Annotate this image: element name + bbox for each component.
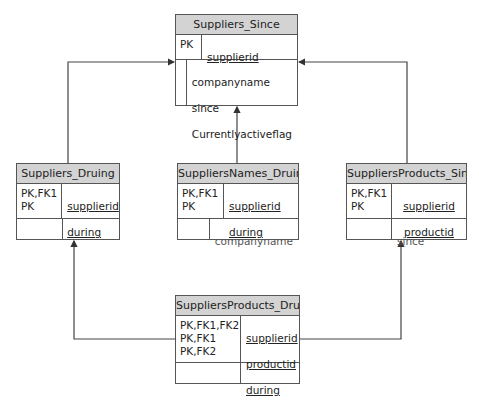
key-labels: PK,FK1 PK [17, 184, 62, 218]
field-supplierid: supplierid [246, 332, 298, 345]
rel-supplierproducts-during-to-suppliers-during [74, 241, 176, 339]
key-labels: PK,FK1 PK [178, 184, 224, 218]
primary-key-fields: supplierid productid during [241, 316, 303, 362]
field-since: since [192, 102, 292, 115]
entity-suppliers-since[interactable]: Suppliers_Since PK supplierid companynam… [175, 14, 298, 106]
attribute-fields: companyname since Currentlyactiveflag [187, 60, 297, 106]
attr-labels [176, 60, 187, 106]
field-supplierid: supplierid [229, 200, 293, 213]
attribute-fields: since [392, 219, 466, 239]
attr-labels [17, 219, 63, 239]
rel-suppliers-during-to-since [68, 62, 174, 163]
attribute-fields [241, 363, 299, 383]
field-companyname: companyname [192, 76, 292, 89]
attr-labels [176, 363, 241, 383]
entity-suppliernames-during[interactable]: SuppliersNames_Druing PK,FK1 PK supplier… [177, 163, 299, 240]
rel-supplierproducts-since-to-since [299, 62, 407, 163]
attr-labels [347, 219, 392, 239]
key-labels: PK,FK1,FK2 PK,FK1 PK,FK2 [176, 316, 241, 362]
field-currentlyactiveflag: Currentlyactiveflag [192, 128, 292, 141]
primary-key-fields: supplierid [202, 35, 297, 59]
entity-suppliers-during[interactable]: Suppliers_Druing PK,FK1 PK supplierid du… [16, 163, 120, 240]
primary-key-fields: supplierid during [224, 184, 298, 218]
rel-supplierproducts-during-to-products-since [300, 241, 401, 339]
entity-title: SuppliersProducts_Druing [176, 296, 299, 316]
entity-title: Suppliers_Since [176, 15, 297, 35]
primary-key-fields: supplierid productid [392, 184, 466, 218]
entity-title: SuppliersProducts_Since [347, 164, 466, 184]
field-supplierid: supplierid [67, 200, 119, 213]
primary-key-fields: supplierid during [62, 184, 124, 218]
entity-title: SuppliersNames_Druing [178, 164, 298, 184]
attribute-fields: companyname [210, 219, 298, 239]
attribute-fields [63, 219, 119, 239]
entity-supplierproducts-during[interactable]: SuppliersProducts_Druing PK,FK1,FK2 PK,F… [175, 295, 300, 384]
entity-supplierproducts-since[interactable]: SuppliersProducts_Since PK,FK1 PK suppli… [346, 163, 467, 240]
key-labels: PK,FK1 PK [347, 184, 392, 218]
field-during: during [246, 384, 298, 397]
field-companyname: companyname [215, 235, 293, 248]
field-supplierid: supplierid [397, 200, 461, 213]
attr-labels [178, 219, 210, 239]
field-since: since [397, 235, 461, 248]
key-labels: PK [176, 35, 202, 59]
entity-title: Suppliers_Druing [17, 164, 119, 184]
